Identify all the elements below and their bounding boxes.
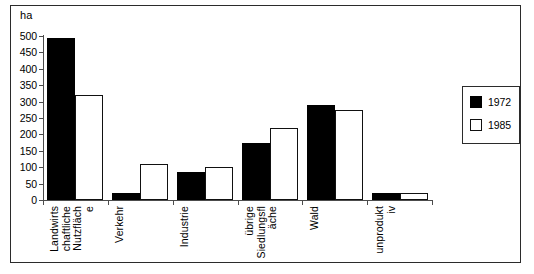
x-axis-category-label: LandwirtschaftlicheNutzfläche: [49, 206, 95, 272]
category-label-line: e: [84, 206, 96, 212]
y-axis-tick-label-text: 350: [11, 80, 37, 90]
category-label-line: übrige: [244, 206, 256, 236]
y-axis-tick-label: 500: [11, 31, 37, 41]
y-axis-tick-label-text: 250: [11, 113, 37, 123]
legend-label: 1985: [488, 120, 511, 131]
y-axis-tick-label: 350: [11, 80, 37, 90]
y-axis-tick-label: 100: [11, 162, 37, 172]
bar-1985: [270, 128, 298, 200]
y-axis-tick-label-text: 500: [11, 31, 37, 41]
legend-swatch-hollow-square-icon: [470, 119, 482, 131]
y-axis-tick-mark: [39, 102, 44, 103]
y-axis-tick-mark: [39, 184, 44, 185]
y-axis-tick-mark: [39, 52, 44, 53]
legend-entry-1985: 1985: [470, 119, 511, 131]
category-label-line: iv: [386, 206, 398, 214]
y-axis-tick-label-text: 300: [11, 97, 37, 107]
y-axis-tick-label: 450: [11, 47, 37, 57]
legend-swatch-filled-square-icon: [470, 96, 482, 108]
category-label-line: Industrie: [179, 206, 191, 247]
bar-1972: [177, 172, 205, 200]
bar-1972: [307, 105, 335, 200]
chart-legend: 1972 1985: [462, 86, 520, 144]
y-axis-tick-label: 300: [11, 97, 37, 107]
y-axis-tick-mark: [39, 118, 44, 119]
x-axis-tick-mark: [108, 200, 109, 205]
y-axis-tick-label-text: 150: [11, 146, 37, 156]
y-axis-tick-label: 400: [11, 64, 37, 74]
category-label-line: Nutzfläch: [72, 206, 84, 251]
x-axis-category-label: Industrie: [179, 206, 191, 272]
y-axis-tick-mark: [39, 167, 44, 168]
y-axis-tick-mark: [39, 69, 44, 70]
y-axis-tick-label: 50: [11, 179, 37, 189]
x-axis-category-label: Verkehr: [114, 206, 126, 272]
bar-1985: [140, 164, 168, 200]
x-axis-category-label: unproduktiv: [374, 206, 397, 272]
x-axis-category-label: Wald: [309, 206, 321, 272]
chart-figure: ha 500450400350300250200150100500 Landwi…: [0, 0, 534, 274]
legend-label: 1972: [488, 97, 511, 108]
y-axis-tick-mark: [39, 151, 44, 152]
x-axis-tick-mark: [238, 200, 239, 205]
y-axis-tick-label-text: 200: [11, 129, 37, 139]
x-axis-category-label: übrigeSiedlungsfläche: [244, 206, 279, 272]
y-axis-tick-label-text: 0: [11, 195, 37, 205]
x-axis-tick-mark: [367, 200, 368, 205]
y-axis-tick-label-text: 400: [11, 64, 37, 74]
category-label-line: äche: [267, 206, 279, 229]
x-axis-tick-mark: [432, 200, 433, 205]
y-axis-tick-label: 0: [11, 195, 37, 205]
legend-entry-1972: 1972: [470, 96, 511, 108]
y-axis-tick-label-text: 50: [11, 179, 37, 189]
y-axis-tick-mark: [39, 85, 44, 86]
bar-1972: [112, 193, 140, 200]
y-axis-tick-mark: [39, 36, 44, 37]
y-axis-tick-label-text: 100: [11, 162, 37, 172]
category-label-line: Verkehr: [114, 206, 126, 243]
category-label-line: Wald: [309, 206, 321, 230]
bar-1985: [400, 193, 428, 200]
y-axis-tick-mark: [39, 134, 44, 135]
bar-1972: [372, 193, 400, 200]
y-axis-tick-label: 200: [11, 129, 37, 139]
category-label-line: Landwirts: [49, 206, 61, 252]
x-axis-tick-mark: [302, 200, 303, 205]
x-axis-tick-mark: [43, 200, 44, 205]
bar-1985: [205, 167, 233, 200]
y-axis-tick-label: 250: [11, 113, 37, 123]
bar-1985: [335, 110, 363, 200]
y-axis-unit-label: ha: [20, 9, 33, 22]
category-label-line: unprodukt: [374, 206, 386, 254]
y-axis-tick-label: 150: [11, 146, 37, 156]
x-axis-tick-mark: [173, 200, 174, 205]
y-axis-tick-label-text: 450: [11, 47, 37, 57]
bar-1985: [75, 95, 103, 200]
bar-1972: [47, 38, 75, 200]
bar-1972: [242, 143, 270, 200]
